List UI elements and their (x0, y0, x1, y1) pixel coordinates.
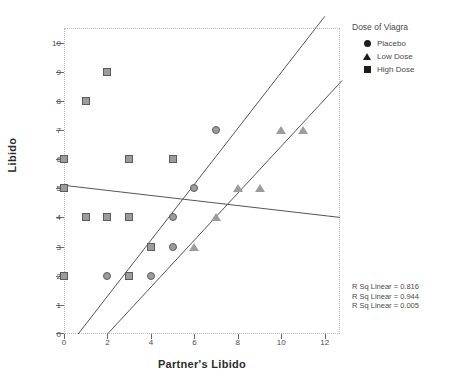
marker-circle (147, 272, 155, 280)
marker-triangle (276, 126, 286, 134)
legend-marker-circle-icon (360, 40, 374, 47)
marker-square (103, 213, 111, 221)
legend-title: Dose of Viagra (352, 22, 448, 32)
marker-square (82, 97, 90, 105)
marker-square (60, 272, 68, 280)
data-point (125, 155, 133, 163)
marker-square (125, 213, 133, 221)
y-tick-label: 0 (57, 330, 61, 339)
data-point (125, 213, 133, 221)
marker-square (125, 155, 133, 163)
data-point (190, 184, 198, 192)
data-point (125, 272, 133, 280)
y-tick-label: 9 (57, 67, 61, 76)
y-tick-label: 3 (57, 242, 61, 251)
data-point (298, 126, 308, 134)
x-tick-label: 8 (236, 338, 240, 347)
marker-triangle (255, 184, 265, 192)
data-point (82, 213, 90, 221)
regression-line-low-dose (107, 80, 342, 334)
y-tick-label: 8 (57, 96, 61, 105)
data-point (60, 272, 68, 280)
marker-circle (169, 243, 177, 251)
legend-label: Low Dose (377, 52, 413, 61)
marker-square (60, 184, 68, 192)
data-point (276, 126, 286, 134)
x-tick-label: 10 (277, 338, 286, 347)
marker-circle (169, 213, 177, 221)
plot-area: 012345678910 024681012 (64, 28, 340, 334)
marker-triangle (298, 126, 308, 134)
data-point (103, 68, 111, 76)
r-squared-line: R Sq Linear = 0.816 (352, 282, 419, 292)
marker-triangle (189, 243, 199, 251)
x-tick-label: 2 (105, 338, 109, 347)
marker-square (103, 68, 111, 76)
data-point (147, 243, 155, 251)
regression-line-placebo (78, 16, 325, 334)
legend-marker-square-icon (360, 66, 374, 73)
marker-triangle (211, 213, 221, 221)
marker-square (82, 213, 90, 221)
data-point (212, 126, 220, 134)
x-tick-label: 4 (149, 338, 153, 347)
legend-label: Placebo (377, 39, 406, 48)
data-point (60, 155, 68, 163)
plot-border-top (64, 28, 340, 29)
data-point (169, 213, 177, 221)
marker-square (125, 272, 133, 280)
scatter-plot-figure: Libido Partner's Libido 012345678910 024… (0, 0, 451, 382)
data-point (189, 243, 199, 251)
y-tick-label: 7 (57, 126, 61, 135)
x-tick-label: 0 (62, 338, 66, 347)
data-point (103, 272, 111, 280)
legend-marker-triangle-icon (360, 53, 374, 60)
plot-border-left (64, 28, 65, 334)
data-point (169, 243, 177, 251)
plot-border-right (339, 28, 340, 334)
x-tick-label: 12 (320, 338, 329, 347)
r-squared-line: R Sq Linear = 0.944 (352, 292, 419, 302)
marker-circle (212, 126, 220, 134)
marker-square (147, 243, 155, 251)
legend-item-low-dose[interactable]: Low Dose (360, 50, 448, 63)
data-point (60, 184, 68, 192)
y-tick-label: 4 (57, 213, 61, 222)
y-tick-label: 1 (57, 300, 61, 309)
data-point (255, 184, 265, 192)
marker-square (169, 155, 177, 163)
y-tick-label: 10 (52, 38, 61, 47)
plot-border-bottom (64, 333, 340, 334)
data-point (82, 97, 90, 105)
marker-square (60, 155, 68, 163)
r-squared-line: R Sq Linear = 0.005 (352, 301, 419, 311)
data-point (169, 155, 177, 163)
r-squared-annotations: R Sq Linear = 0.816 R Sq Linear = 0.944 … (352, 282, 419, 311)
legend: Dose of Viagra PlaceboLow DoseHigh Dose (352, 22, 448, 76)
data-point (103, 213, 111, 221)
marker-circle (190, 184, 198, 192)
data-point (211, 213, 221, 221)
x-tick-label: 6 (192, 338, 196, 347)
legend-item-high-dose[interactable]: High Dose (360, 63, 448, 76)
x-axis-title: Partner's Libido (158, 358, 246, 370)
marker-triangle (233, 184, 243, 192)
data-point (233, 184, 243, 192)
data-point (147, 272, 155, 280)
marker-circle (103, 272, 111, 280)
legend-item-placebo[interactable]: Placebo (360, 37, 448, 50)
y-axis-title: Libido (6, 138, 18, 173)
legend-label: High Dose (377, 65, 414, 74)
